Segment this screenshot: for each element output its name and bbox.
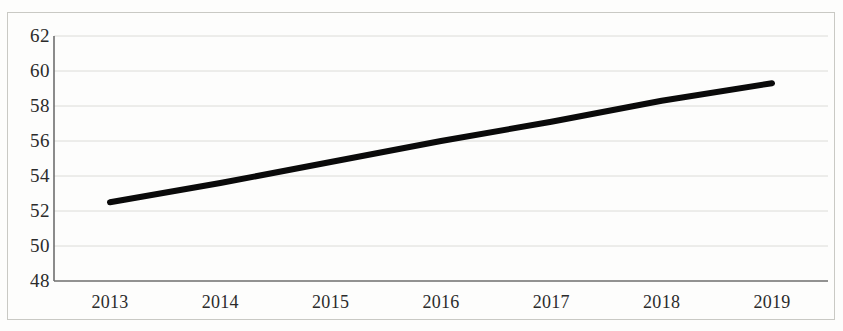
x-tick-label: 2016: [396, 293, 486, 311]
x-tick-label: 2013: [65, 293, 155, 311]
x-axis-tick-labels: 2013201420152016201720182019: [0, 0, 843, 331]
x-tick-label: 2017: [506, 293, 596, 311]
x-tick-label: 2018: [617, 293, 707, 311]
x-tick-label: 2014: [175, 293, 265, 311]
line-chart-figure: 4850525456586062 20132014201520162017201…: [0, 0, 843, 331]
x-tick-label: 2015: [286, 293, 376, 311]
x-tick-label: 2019: [727, 293, 817, 311]
